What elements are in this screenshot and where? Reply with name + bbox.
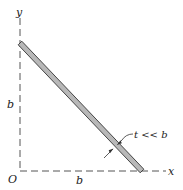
thin-bar-diagram: y x O b b t << b (0, 0, 183, 190)
y-axis-label: y (15, 6, 23, 19)
vertical-dimension-label: b (7, 98, 14, 111)
thickness-leader-line (122, 134, 133, 140)
thickness-label: t << b (134, 129, 168, 140)
x-axis-label: x (168, 165, 175, 178)
thin-bar (18, 41, 144, 173)
origin-label: O (8, 173, 17, 186)
horizontal-dimension-label: b (76, 174, 83, 187)
